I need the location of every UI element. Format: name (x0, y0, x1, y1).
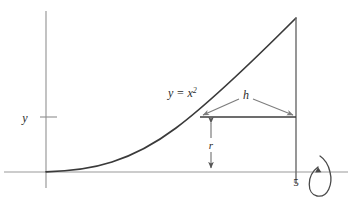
curve-equation-lhs: y = (167, 86, 184, 100)
h-leader-arrow-right (253, 99, 293, 115)
curve-equation-label: y =x2 (167, 86, 197, 100)
r-label-front: r (209, 139, 214, 151)
h-label: h (243, 88, 249, 102)
y-value-label: y (21, 111, 28, 125)
x-tick-label-5: 5 (293, 176, 299, 188)
curve-equation-exponent: 2 (193, 86, 197, 95)
rotation-arrow-icon (309, 156, 331, 196)
volume-of-revolution-diagram: y 5 y =x2 h r r (0, 0, 359, 215)
